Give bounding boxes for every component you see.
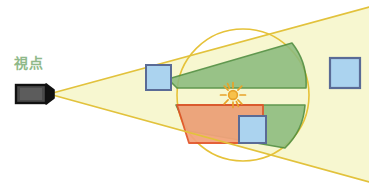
object-square-right [330,58,360,88]
view-cone-fill [49,7,369,182]
camera-viewpoint-icon [16,84,54,104]
sun-icon [221,83,246,108]
diagram-canvas: 視点 [0,0,369,187]
viewpoint-label: 視点 [14,56,43,70]
object-square-center [239,116,266,143]
viewpoint-diagram [0,0,369,187]
object-square-left [146,65,171,90]
